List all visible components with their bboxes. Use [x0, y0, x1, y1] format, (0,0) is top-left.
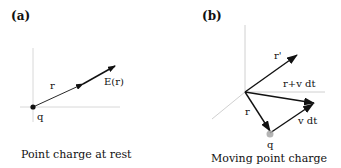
panel-a-label: (a) — [11, 9, 30, 23]
label-r: r — [50, 80, 55, 91]
label-r-plus-vdt: r+v dt — [283, 78, 315, 89]
label-r-prime: r' — [274, 50, 282, 61]
label-r: r — [245, 106, 250, 117]
y-axis — [212, 92, 245, 119]
label-vdt: v dt — [298, 115, 317, 126]
label-field: E(r) — [104, 76, 124, 87]
position-vector-r — [33, 84, 83, 107]
vector-r-plus-vdt — [245, 92, 314, 103]
panel-b-label: (b) — [202, 9, 222, 23]
caption-b: Moving point charge — [211, 152, 327, 165]
charge-dot — [30, 104, 35, 109]
caption-a: Point charge at rest — [21, 148, 132, 161]
label-charge: q — [267, 139, 273, 150]
label-charge: q — [37, 111, 43, 122]
charge-dot — [267, 131, 274, 138]
